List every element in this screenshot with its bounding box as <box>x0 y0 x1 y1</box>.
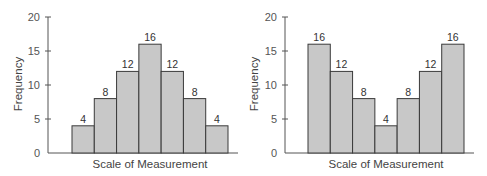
bar <box>72 126 94 153</box>
histogram-symmetric-unimodal: Frequency Scale of Measurement 051015204… <box>12 11 238 170</box>
bar <box>353 99 375 153</box>
y-tick-label: 5 <box>271 113 277 125</box>
y-tick-label: 0 <box>34 147 40 159</box>
bar <box>117 71 139 153</box>
y-axis-title: Frequency <box>248 57 260 112</box>
y-tick-label: 20 <box>265 11 277 23</box>
bar <box>375 126 397 153</box>
bar-data-label: 16 <box>313 31 325 43</box>
bar <box>94 99 116 153</box>
bar-data-label: 4 <box>80 113 86 125</box>
y-tick-label: 5 <box>34 113 40 125</box>
y-tick-label: 20 <box>28 11 40 23</box>
y-tick-label: 0 <box>271 147 277 159</box>
bar <box>206 126 228 153</box>
bar <box>183 99 205 153</box>
bar <box>139 44 161 153</box>
bar-data-label: 8 <box>405 86 411 98</box>
y-tick-label: 15 <box>28 45 40 57</box>
bar-data-label: 4 <box>383 113 389 125</box>
bar-data-label: 4 <box>214 113 220 125</box>
bar-data-label: 8 <box>192 86 198 98</box>
bar-data-label: 12 <box>336 58 348 70</box>
bar <box>397 99 419 153</box>
y-tick-label: 15 <box>265 45 277 57</box>
histogram-figure: Frequency Scale of Measurement 051015204… <box>0 0 487 176</box>
bar-data-label: 8 <box>361 86 367 98</box>
bar-data-label: 12 <box>122 58 134 70</box>
bar <box>308 44 330 153</box>
bar <box>161 71 183 153</box>
bar-data-label: 16 <box>144 31 156 43</box>
bar-data-label: 12 <box>166 58 178 70</box>
bar-data-label: 8 <box>103 86 109 98</box>
y-axis-title: Frequency <box>12 57 24 112</box>
bar-data-label: 16 <box>447 31 459 43</box>
bar <box>330 71 352 153</box>
bar-data-label: 12 <box>425 58 437 70</box>
histogram-u-shaped: Frequency Scale of Measurement 051015201… <box>248 11 474 170</box>
y-tick-label: 10 <box>28 79 40 91</box>
bar <box>442 44 464 153</box>
x-axis-title: Scale of Measurement <box>328 158 444 170</box>
x-axis-title: Scale of Measurement <box>92 158 208 170</box>
bar <box>419 71 441 153</box>
y-tick-label: 10 <box>265 79 277 91</box>
